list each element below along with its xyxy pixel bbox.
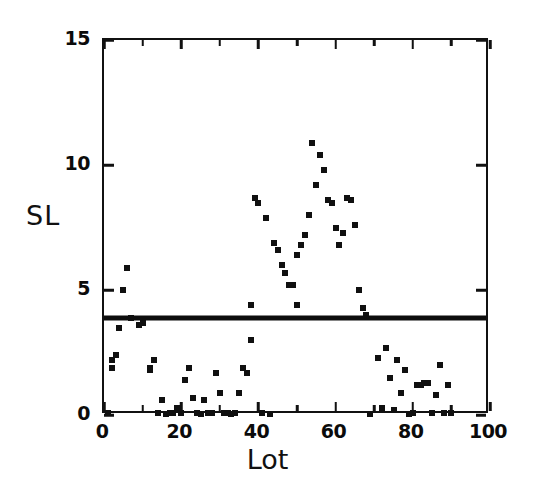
x-axis-title: Lot	[0, 446, 535, 473]
data-point	[282, 270, 288, 276]
data-point	[201, 397, 207, 403]
data-point	[437, 362, 443, 368]
data-point	[275, 247, 281, 253]
x-axis-tick-minor	[141, 405, 144, 411]
data-point	[425, 380, 431, 386]
data-point	[182, 377, 188, 383]
y-axis-tick-major	[104, 164, 114, 167]
data-point	[367, 411, 373, 417]
x-axis-tick-major	[489, 402, 492, 411]
data-point	[433, 392, 439, 398]
y-tick-label: 5	[0, 279, 90, 298]
data-point	[124, 265, 130, 271]
data-point	[217, 390, 223, 396]
data-point	[190, 395, 196, 401]
data-point	[360, 305, 366, 311]
data-point	[313, 182, 319, 188]
data-point	[120, 287, 126, 293]
data-point	[383, 345, 389, 351]
data-point	[279, 262, 285, 268]
data-point	[290, 282, 296, 288]
data-point	[348, 197, 354, 203]
data-point	[294, 252, 300, 258]
data-point	[248, 337, 254, 343]
y-tick-label: 15	[0, 29, 90, 48]
x-tick-label: 0	[96, 422, 109, 441]
data-point	[302, 232, 308, 238]
data-point	[333, 225, 339, 231]
y-axis-tick-major	[104, 39, 114, 42]
data-point	[441, 410, 447, 416]
data-point	[306, 212, 312, 218]
data-point	[209, 410, 215, 416]
data-point	[379, 405, 385, 411]
data-point	[271, 240, 277, 246]
data-point	[398, 390, 404, 396]
x-axis-tick-major-top	[180, 40, 183, 49]
x-tick-label: 40	[244, 422, 269, 441]
x-tick-label: 20	[166, 422, 191, 441]
x-axis-tick-minor-top	[373, 40, 376, 46]
x-axis-tick-major	[180, 402, 183, 411]
x-axis-tick-major-top	[334, 40, 337, 49]
data-point	[317, 152, 323, 158]
data-point	[140, 320, 146, 326]
x-axis-tick-major	[334, 402, 337, 411]
y-axis-title: SL	[26, 202, 60, 229]
y-tick-label: 0	[0, 404, 90, 423]
data-point	[255, 200, 261, 206]
data-point	[375, 355, 381, 361]
threshold-line	[104, 315, 486, 320]
data-point	[429, 410, 435, 416]
data-point	[198, 411, 204, 417]
data-point	[294, 302, 300, 308]
x-axis-tick-major-top	[412, 40, 415, 49]
data-point	[232, 410, 238, 416]
x-tick-label: 80	[398, 422, 423, 441]
data-point	[309, 140, 315, 146]
data-point	[213, 370, 219, 376]
data-point	[151, 357, 157, 363]
data-points-layer	[104, 40, 486, 411]
data-point	[259, 410, 265, 416]
data-point	[109, 365, 115, 371]
x-axis-tick-major	[257, 402, 260, 411]
data-point	[147, 367, 153, 373]
data-point	[267, 411, 273, 417]
data-point	[186, 365, 192, 371]
x-axis-tick-minor	[296, 405, 299, 411]
data-point	[244, 370, 250, 376]
x-axis-tick-minor-top	[219, 40, 222, 46]
data-point	[236, 390, 242, 396]
x-tick-label: 60	[321, 422, 346, 441]
data-point	[263, 215, 269, 221]
scatter-plot-figure: 020406080100 051015 SL Lot	[0, 0, 535, 492]
x-axis-tick-minor	[450, 405, 453, 411]
data-point	[340, 230, 346, 236]
y-axis-tick-major-right	[476, 289, 486, 292]
data-point	[394, 357, 400, 363]
x-tick-label: 100	[469, 422, 507, 441]
x-axis-tick-minor	[219, 405, 222, 411]
x-axis-tick-major	[412, 402, 415, 411]
data-point	[159, 397, 165, 403]
data-point	[356, 287, 362, 293]
x-axis-tick-minor-top	[296, 40, 299, 46]
data-point	[391, 407, 397, 413]
data-point	[113, 352, 119, 358]
x-axis-tick-major-top	[489, 40, 492, 49]
x-axis-tick-minor-top	[450, 40, 453, 46]
y-axis-tick-major-right	[476, 39, 486, 42]
y-axis-tick-major-right	[476, 164, 486, 167]
x-axis-tick-minor-top	[141, 40, 144, 46]
data-point	[387, 375, 393, 381]
plot-area	[102, 38, 488, 413]
y-axis-tick-major	[104, 289, 114, 292]
data-point	[402, 367, 408, 373]
x-axis-tick-major-top	[103, 40, 106, 49]
y-axis-tick-major	[104, 414, 114, 417]
data-point	[336, 242, 342, 248]
data-point	[116, 325, 122, 331]
data-point	[155, 410, 161, 416]
data-point	[321, 167, 327, 173]
